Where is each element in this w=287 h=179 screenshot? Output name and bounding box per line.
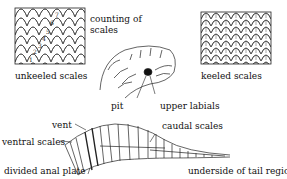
scale-count-number: 5 (46, 27, 50, 37)
keeled-scales-illustration (201, 12, 271, 64)
counting-of-scales-label-line2: scales (90, 25, 118, 35)
caudal-scales-leader-line (150, 134, 155, 142)
unkeeled-scales-label: unkeeled scales (15, 71, 87, 81)
diagram-canvas (0, 0, 287, 179)
divided-anal-plate-label: divided anal plate (4, 166, 86, 176)
unkeeled-scales-illustration (15, 8, 85, 64)
scale-count-number: 7 (55, 10, 59, 20)
upper-labials-label: upper labials (160, 101, 220, 111)
vent-leader-line (75, 124, 86, 130)
caudal-scales-label: caudal scales (162, 121, 223, 131)
pit-label: pit (111, 101, 123, 111)
snake-head-illustration (100, 46, 175, 98)
counting-of-scales-label: counting of (90, 14, 142, 24)
vent-label: vent (52, 120, 72, 130)
keeled-scales-label: keeled scales (201, 71, 262, 81)
scale-count-number: 2 (33, 47, 37, 57)
ventral-scales-label: ventral scales (2, 137, 65, 147)
underside-of-tail-region-label: underside of tail region (188, 166, 287, 176)
scale-count-number: 6 (50, 18, 54, 28)
upper-labials-leader-line (150, 76, 155, 94)
pit-leader-line (137, 76, 146, 98)
